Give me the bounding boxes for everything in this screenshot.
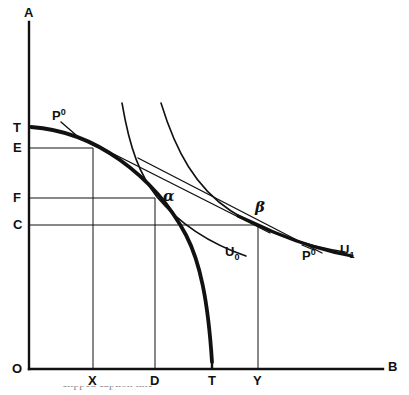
point-label-alpha: α (163, 189, 175, 204)
caption-strip: clipped caption line (0, 386, 409, 395)
u0-subscript: 0 (234, 252, 239, 262)
production-possibility-frontier-path (31, 127, 212, 362)
caption-text: clipped caption line (62, 386, 153, 389)
indifference-curve-u1-path (161, 103, 345, 252)
axis-label-vertical: A (24, 6, 33, 19)
y-tick-label-E: E (13, 141, 22, 154)
indifference-curve-u1-label: U1 (340, 243, 354, 260)
axis-label-origin: O (12, 362, 22, 375)
u0-base: U (225, 244, 234, 259)
price-line-p0-lower-label: P0 (302, 248, 316, 262)
p0-lower-base: P (302, 248, 311, 263)
point-label-beta: β (255, 200, 265, 215)
p0-upper-base: P (52, 108, 61, 123)
indifference-curve-u0-label: U0 (225, 245, 239, 262)
p0-lower-superscript: 0 (311, 247, 316, 257)
p0-upper-superscript: 0 (61, 107, 66, 117)
y-tick-label-C: C (13, 218, 22, 231)
price-line-p0-upper-label: P0 (52, 108, 66, 122)
y-tick-label-T: T (13, 121, 21, 134)
diagram-canvas (0, 0, 409, 395)
u1-base: U (340, 242, 349, 257)
axis-label-horizontal: B (388, 360, 397, 373)
u1-subscript: 1 (349, 250, 354, 260)
economics-figure: A B O T E F C X D T Y P0 P0 U0 U1 α β cl… (0, 0, 409, 395)
y-tick-label-F: F (13, 191, 21, 204)
